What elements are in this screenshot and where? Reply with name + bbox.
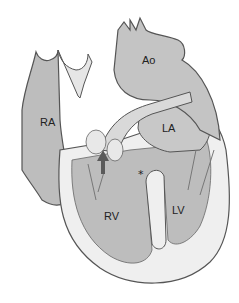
valve-leaflet-right: [107, 139, 123, 161]
label-ra: RA: [40, 116, 56, 128]
heart-diagram: RA Ao LA RV LV *: [0, 0, 239, 303]
asterisk-marker: *: [138, 168, 144, 181]
label-ao: Ao: [142, 54, 155, 66]
label-la: LA: [162, 122, 176, 134]
label-lv: LV: [172, 204, 185, 216]
label-rv: RV: [104, 210, 120, 222]
superior-vena-cava: [58, 50, 92, 98]
